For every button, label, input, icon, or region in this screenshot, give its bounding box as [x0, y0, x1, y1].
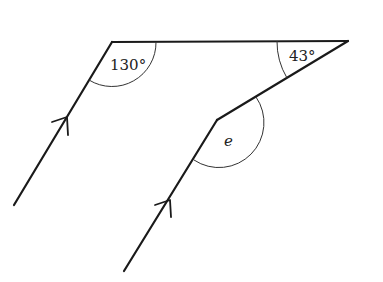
- right-diagonal-line: [217, 41, 348, 120]
- angle-label-43: 43°: [289, 47, 316, 65]
- angle-arc-43: [277, 41, 287, 78]
- angle-label-e: e: [224, 132, 233, 150]
- angle-label-130: 130°: [110, 56, 146, 74]
- lower-parallel-line: [124, 120, 217, 271]
- left-parallel-line: [14, 42, 112, 205]
- geometry-diagram: 130° 43° e: [0, 0, 383, 282]
- top-line: [112, 41, 348, 42]
